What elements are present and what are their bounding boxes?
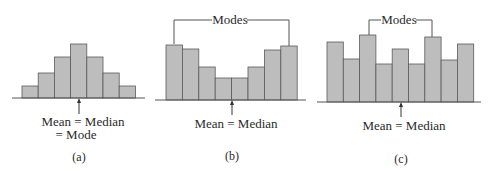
histogram-bar [457, 44, 473, 102]
annotation-c-line1: Mean = Median [362, 118, 445, 134]
histogram-bar [54, 57, 70, 98]
histogram-bar [119, 86, 135, 98]
caption-b: (b) [225, 149, 239, 164]
histogram-b [166, 45, 297, 100]
arrow-b [230, 100, 234, 115]
histogram-bar [166, 45, 182, 100]
histogram-c [327, 35, 474, 102]
histogram-bar [343, 59, 359, 102]
histogram-bar [38, 73, 54, 98]
annotation-a-line2: = Mode [56, 127, 97, 143]
histogram-bar [232, 78, 248, 100]
histogram-bar [22, 86, 38, 98]
histogram-bar [441, 60, 457, 102]
arrow-a [77, 98, 81, 114]
annotation-b-line1: Mean = Median [194, 116, 277, 132]
caption-a: (a) [72, 150, 85, 165]
histogram-bar [392, 49, 408, 102]
histogram-bar [264, 50, 280, 100]
histogram-bar [87, 57, 103, 98]
histogram-bar [281, 46, 297, 100]
caption-c: (c) [394, 152, 407, 167]
histogram-bar [360, 35, 376, 102]
histogram-bar [376, 64, 392, 102]
histogram-bar [215, 78, 231, 100]
histogram-bar [103, 73, 119, 98]
histogram-bar [327, 42, 343, 102]
histogram-bar [182, 49, 198, 100]
modes-label-c: Modes [381, 12, 416, 28]
histogram-bar [425, 37, 441, 102]
histogram-bar [248, 67, 264, 100]
histogram-bar [409, 64, 425, 102]
histogram-bar [199, 67, 215, 100]
histogram-bar [71, 44, 87, 98]
arrow-c [399, 102, 403, 117]
modes-label-b: Modes [212, 12, 247, 28]
histogram-a [22, 44, 135, 98]
